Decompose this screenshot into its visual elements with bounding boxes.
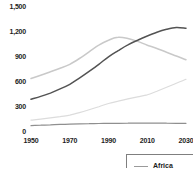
y-tick-label: 1,200 [0, 27, 26, 36]
series-line-3-pale-rising [31, 79, 186, 120]
series-line-2-light-hump [31, 37, 186, 78]
y-tick-label: 1,500 [0, 2, 26, 11]
y-tick-label: 300 [0, 102, 26, 111]
x-tick-label: 2010 [135, 136, 159, 145]
x-tick-label: 2030 [174, 136, 193, 145]
x-tick-label: 1970 [58, 136, 82, 145]
series-line-4-flat-low [31, 123, 186, 126]
line-chart: 03006009001,2001,500 1950197019902010203… [0, 0, 193, 168]
legend-box: Africa [126, 154, 193, 168]
x-tick-label: 1950 [19, 136, 43, 145]
legend-line-swatch [134, 166, 148, 168]
y-tick-label: 0 [0, 127, 26, 136]
x-tick-label: 1990 [97, 136, 121, 145]
legend-label-africa: Africa [153, 161, 173, 169]
y-tick-label: 600 [0, 77, 26, 86]
y-tick-label: 900 [0, 52, 26, 61]
